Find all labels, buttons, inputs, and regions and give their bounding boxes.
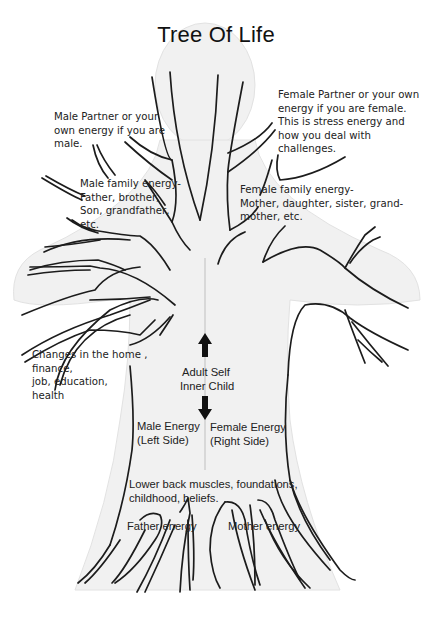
page-title: Tree Of Life (0, 22, 432, 48)
annotation-female-partner: Female Partner or your own energy if you… (278, 88, 419, 156)
annotation-male-family: Male family energy- Father, brother, Son… (80, 177, 181, 231)
annotation-female-family: Female family energy- Mother, daughter, … (240, 183, 403, 224)
annotation-male-energy: Male Energy (Left Side) (137, 419, 200, 447)
annotation-female-energy: Female Energy (Right Side) (210, 420, 286, 448)
annotation-mother-energy: Mother energy (228, 519, 300, 533)
annotation-center: Adult Self Inner Child (180, 365, 232, 393)
annotation-male-partner: Male Partner or your own energy if you a… (54, 110, 165, 151)
annotation-changes: Changes in the home , finance, job, educ… (32, 348, 147, 402)
annotation-father-energy: Father energy (127, 519, 197, 533)
annotation-lower-back: Lower back muscles, foundations, childho… (129, 477, 298, 505)
